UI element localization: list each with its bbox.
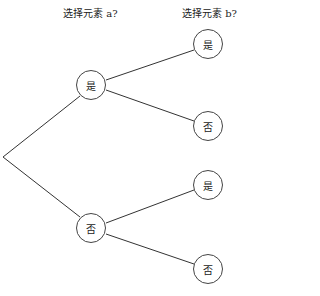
node-a-no: 否 xyxy=(76,213,106,243)
level1-header: 选择元素 a? xyxy=(63,5,118,20)
node-a-yes: 是 xyxy=(76,70,106,100)
node-a-no-b-yes: 是 xyxy=(193,170,223,200)
node-a-no-b-no: 否 xyxy=(193,254,223,284)
node-a-yes-b-no: 否 xyxy=(193,111,223,141)
level2-header: 选择元素 b? xyxy=(182,5,237,20)
node-a-yes-b-yes: 是 xyxy=(193,29,223,59)
